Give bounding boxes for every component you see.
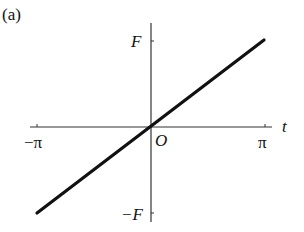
x-tick-label-pi: π (258, 134, 267, 151)
x-tick-label-neg-pi: −π (24, 134, 42, 151)
y-tick-label-neg-F: −F (121, 206, 143, 223)
figure: (a) F −F −π π O t (0, 0, 304, 232)
x-axis-label: t (282, 118, 287, 135)
plot-area (0, 0, 304, 232)
origin-label: O (155, 132, 167, 149)
y-tick-label-F: F (131, 33, 141, 50)
